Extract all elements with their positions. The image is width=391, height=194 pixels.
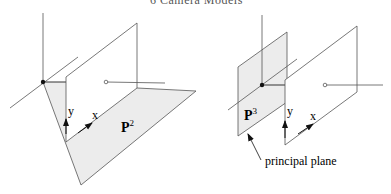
plane-exponent: 3 — [253, 106, 258, 116]
left-plane-label: P2 — [121, 118, 134, 136]
right-principal-point — [323, 83, 327, 87]
right-x-label: x — [310, 109, 316, 124]
left-figure — [10, 13, 196, 185]
right-y-label: y — [287, 104, 293, 119]
right-plane-label: P3 — [244, 106, 257, 124]
plane-symbol: P — [121, 120, 130, 135]
left-x-label: x — [92, 108, 98, 123]
right-camera-centre — [260, 83, 264, 87]
right-figure — [228, 15, 383, 160]
left-principal-point — [104, 80, 108, 84]
plane-exponent: 2 — [130, 118, 135, 128]
left-camera-centre — [41, 80, 45, 84]
right-image-plane — [285, 26, 357, 145]
principal-plane-label: principal plane — [265, 154, 337, 169]
left-y-label: y — [68, 104, 74, 119]
principal-plane-pointer — [248, 134, 261, 160]
plane-symbol: P — [244, 108, 253, 123]
